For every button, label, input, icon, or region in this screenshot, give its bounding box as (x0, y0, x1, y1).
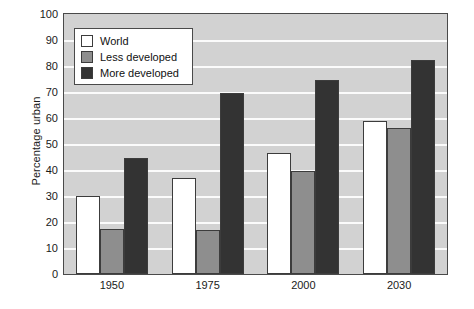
chart-legend: WorldLess developedMore developed (74, 28, 193, 85)
bar-group (267, 14, 339, 274)
y-axis-tick: 70 (46, 86, 58, 98)
y-axis-tick: 60 (46, 112, 58, 124)
y-axis-tick-labels: 0102030405060708090100 (24, 13, 58, 275)
y-axis-tick: 50 (46, 138, 58, 150)
y-axis-tick: 30 (46, 190, 58, 202)
legend-item: World (81, 33, 186, 49)
bar (315, 80, 339, 274)
x-axis-tick-labels: 1950197520002030 (63, 279, 448, 299)
legend-item: Less developed (81, 49, 186, 65)
y-axis-tick: 10 (46, 242, 58, 254)
bar (100, 229, 124, 275)
y-axis-tick: 40 (46, 164, 58, 176)
bar-group (363, 14, 435, 274)
legend-item: More developed (81, 65, 186, 81)
x-axis-tick: 1975 (195, 279, 219, 291)
bar (267, 153, 291, 274)
legend-swatch-icon (81, 67, 93, 79)
bar (411, 60, 435, 275)
y-axis-tick: 90 (46, 34, 58, 46)
legend-label: Less developed (100, 51, 177, 63)
y-axis-tick: 100 (40, 8, 58, 20)
y-axis-tick: 80 (46, 60, 58, 72)
y-axis-tick: 20 (46, 216, 58, 228)
bar (76, 196, 100, 274)
bar (124, 158, 148, 274)
legend-swatch-icon (81, 51, 93, 63)
bar (172, 178, 196, 274)
x-axis-tick: 2000 (291, 279, 315, 291)
legend-label: More developed (100, 67, 179, 79)
bar-chart: Percentage urban 0102030405060708090100 … (0, 0, 474, 309)
bar (196, 230, 220, 274)
legend-label: World (100, 35, 129, 47)
legend-swatch-icon (81, 35, 93, 47)
x-axis-tick: 2030 (387, 279, 411, 291)
y-axis-tick: 0 (52, 268, 58, 280)
bar (363, 121, 387, 274)
bar (387, 128, 411, 274)
bar (220, 93, 244, 274)
bar (291, 171, 315, 274)
x-axis-tick: 1950 (100, 279, 124, 291)
